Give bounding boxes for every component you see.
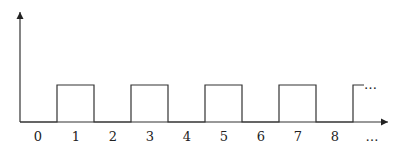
tick-label: 3 bbox=[146, 129, 154, 144]
tick-label: 5 bbox=[220, 129, 228, 144]
x-tick-labels: 0 1 2 3 4 5 6 7 8 … bbox=[34, 129, 379, 144]
tick-label: 2 bbox=[109, 129, 117, 144]
tick-label: 6 bbox=[257, 129, 265, 144]
square-wave-diagram: … 0 1 2 3 4 5 6 7 8 … bbox=[0, 0, 402, 154]
tick-label: 1 bbox=[72, 129, 80, 144]
signal-continuation: … bbox=[364, 77, 377, 92]
square-wave-signal bbox=[20, 85, 364, 122]
tick-label-ellipsis: … bbox=[366, 129, 379, 144]
tick-label: 0 bbox=[34, 129, 42, 144]
tick-label: 4 bbox=[183, 129, 191, 144]
tick-label: 7 bbox=[294, 129, 302, 144]
tick-label: 8 bbox=[331, 129, 339, 144]
